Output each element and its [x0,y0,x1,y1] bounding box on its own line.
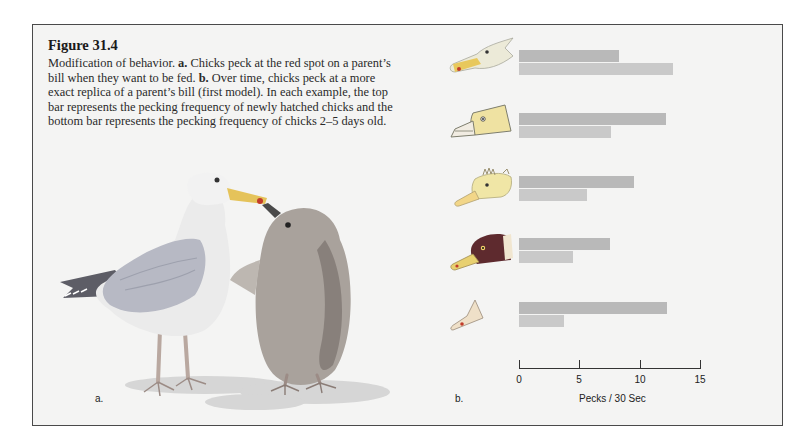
bar-2-5-days [519,63,673,75]
x-axis-line [519,368,701,369]
bar-2-5-days [519,315,564,327]
model-head-icon [445,101,517,151]
panel-a-label: a. [95,393,103,404]
x-axis-tick-label: 5 [576,374,582,385]
x-axis-tick [519,360,520,369]
gull-eye [215,178,220,183]
ground-shadow [125,376,390,410]
bar-2-5-days [519,251,573,263]
caption-bold-a: a. [178,56,187,70]
x-axis-tick [579,360,580,369]
chick-bill [262,203,281,218]
red-spot [257,198,263,204]
x-axis-tick [640,360,641,369]
figure-title: Figure 31.4 [48,37,118,54]
gull-and-chick-illustration [55,170,395,415]
bar-2-5-days [519,126,611,138]
chick-eye [285,222,291,228]
x-axis-tick-label: 10 [634,374,645,385]
bar-newly-hatched [519,50,619,62]
caption-bold-b: b. [199,71,209,85]
x-axis-tick [700,360,701,369]
x-axis-tick-label: 15 [694,374,705,385]
x-axis-title: Pecks / 30 Sec [579,393,646,404]
figure-caption: Modification of behavior. a. Chicks peck… [48,56,398,129]
bill-model-icon [445,292,517,342]
gull-legs [158,330,188,382]
gull-head [187,172,231,205]
gull-head-icon [445,34,517,84]
bar-newly-hatched [519,238,610,250]
bar-2-5-days [519,189,587,201]
caption-text: Modification of behavior. [48,56,178,70]
dark-head-icon [445,228,517,278]
panel-b-label: b. [455,393,463,404]
bar-newly-hatched [519,302,667,314]
bar-newly-hatched [519,113,666,125]
bar-newly-hatched [519,176,634,188]
x-axis-tick-label: 0 [516,374,522,385]
crested-head-icon [445,165,517,215]
